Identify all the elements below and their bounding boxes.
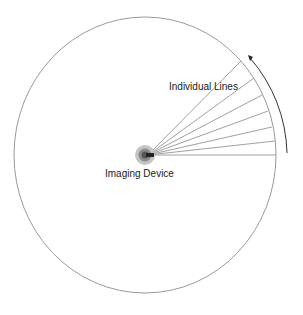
diagram-canvas: Individual Lines Imaging Device [0, 0, 303, 315]
individual-lines-label: Individual Lines [169, 81, 238, 92]
individual-lines [148, 61, 276, 155]
rotation-arrow [250, 58, 287, 153]
imaging-device-icon [135, 145, 155, 165]
imaging-device-label: Imaging Device [105, 168, 174, 179]
diagram-svg [0, 0, 303, 315]
